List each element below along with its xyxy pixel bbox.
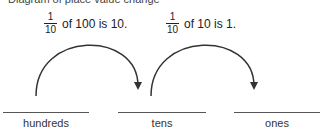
arrow-tens-to-ones-icon (151, 45, 254, 96)
tens-blank-line (118, 112, 206, 113)
label-ones: ones (234, 117, 320, 129)
ones-blank-line (234, 112, 320, 113)
label-tens: tens (118, 117, 206, 129)
hundreds-blank-line (3, 112, 89, 113)
label-hundreds: hundreds (3, 117, 89, 129)
arrows-diagram (0, 0, 320, 130)
arrow-hundreds-to-tens-icon (36, 45, 138, 96)
